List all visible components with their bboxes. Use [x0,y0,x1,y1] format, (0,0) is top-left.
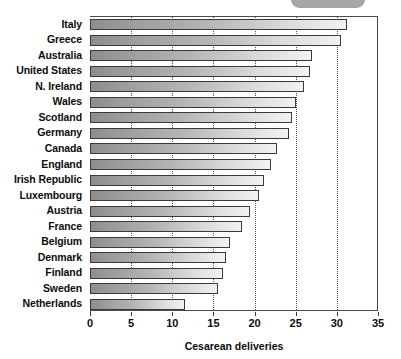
category-label-luxembourg: Luxembourg [19,189,82,201]
bar-irish-republic [90,175,264,186]
bar-germany [90,128,289,139]
bar-italy [90,19,347,30]
category-label-austria: Austria [47,204,82,216]
bar-united-states [90,66,310,77]
category-label-australia: Australia [38,49,82,61]
category-label-canada: Canada [45,142,82,154]
tick-label-15: 15 [207,317,219,329]
category-label-england: England [41,158,82,170]
category-label-wales: Wales [53,95,82,107]
tick-mark-30 [337,312,338,316]
category-label-italy: Italy [61,18,82,30]
bar-canada [90,143,277,154]
bar-fill [90,81,304,92]
category-label-n-ireland: N. Ireland [35,80,82,92]
category-label-france: France [48,220,82,232]
bar-fill [90,35,341,46]
bar-scotland [90,112,292,123]
bar-england [90,159,271,170]
bar-fill [90,206,250,217]
bar-wales [90,97,296,108]
tick-label-20: 20 [248,317,260,329]
tick-label-30: 30 [331,317,343,329]
tick-mark-0 [90,312,91,316]
x-axis-title: Cesarean deliveries [90,340,378,352]
bar-australia [90,50,312,61]
bar-fill [90,190,259,201]
bar-austria [90,206,250,217]
bar-fill [90,283,218,294]
bar-denmark [90,252,226,263]
bar-greece [90,35,341,46]
bar-fill [90,128,289,139]
bar-fill [90,19,347,30]
tick-mark-20 [255,312,256,316]
category-label-united-states: United States [16,64,82,76]
x-axis-ticks: 05101520253035 [90,312,378,332]
bar-n-ireland [90,81,304,92]
category-label-column: ItalyGreeceAustraliaUnited StatesN. Irel… [0,16,86,311]
category-label-belgium: Belgium [41,235,82,247]
bar-fill [90,143,277,154]
tick-mark-15 [213,312,214,316]
bar-luxembourg [90,190,259,201]
bar-fill [90,159,271,170]
gridline-30 [337,17,338,310]
bar-netherlands [90,299,185,310]
tick-mark-35 [378,312,379,316]
bar-sweden [90,283,218,294]
category-label-denmark: Denmark [38,251,82,263]
bar-fill [90,50,312,61]
tick-mark-5 [131,312,132,316]
plot-area [90,16,378,311]
category-label-scotland: Scotland [38,111,82,123]
bar-fill [90,252,226,263]
category-label-sweden: Sweden [43,282,82,294]
bar-fill [90,97,296,108]
bar-fill [90,112,292,123]
category-label-germany: Germany [37,126,82,138]
tick-label-0: 0 [87,317,93,329]
tick-label-5: 5 [128,317,134,329]
bar-finland [90,268,223,279]
bar-fill [90,175,264,186]
bar-fill [90,237,230,248]
category-label-greece: Greece [47,33,82,45]
cesarean-deliveries-bar-chart: ItalyGreeceAustraliaUnited StatesN. Irel… [0,0,401,359]
category-label-finland: Finland [45,266,82,278]
tick-label-25: 25 [290,317,302,329]
bar-belgium [90,237,230,248]
bar-fill [90,221,242,232]
bar-fill [90,268,223,279]
category-label-netherlands: Netherlands [22,297,82,309]
tick-label-35: 35 [372,317,384,329]
bar-france [90,221,242,232]
tick-label-10: 10 [166,317,178,329]
bar-fill [90,299,185,310]
bar-fill [90,66,310,77]
tick-mark-10 [172,312,173,316]
tick-mark-25 [296,312,297,316]
category-label-irish-republic: Irish Republic [14,173,82,185]
